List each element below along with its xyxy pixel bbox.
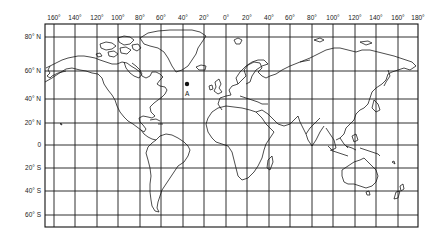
latitude-label: 60° N [25,67,42,74]
marker-label: A [185,90,190,97]
coast-greenland [140,30,206,72]
coast-asia-east [336,70,398,140]
longitude-label: 80° [307,14,317,21]
longitude-label: 180° [411,14,425,21]
latitude-label: 20° N [25,119,42,126]
coast-arctic-islands [96,36,141,57]
marker-dot-icon [185,82,189,86]
coast-hudson-bay [124,62,142,78]
marker-a: A [185,82,190,97]
longitude-label: 120° [348,14,362,21]
longitude-label: 60° [156,14,166,21]
coast-africa [206,106,274,180]
longitude-label: 160° [47,14,61,21]
longitude-label: 80° [135,14,145,21]
coast-british-isles [209,79,222,94]
coast-scandinavia [236,60,268,84]
longitude-label: 40° [264,14,274,21]
coast-alaska [47,66,66,78]
longitude-label: 60° [285,14,295,21]
coast-svalbard [234,38,242,44]
longitude-label: 100° [326,14,340,21]
latitude-label: 0 [37,141,41,148]
latitude-labels: 80° N60° N40° N20° N020° S40° S60° S [25,33,42,218]
latitude-label: 60° S [25,211,42,218]
latitude-label: 40° S [25,187,42,194]
longitude-label: 20° [242,14,252,21]
longitude-label: 120° [90,14,104,21]
longitude-labels: 160°140°120°100°80°60°40°20°0°20°40°60°8… [47,14,425,21]
coast-north-america [45,56,167,132]
world-map: 160°140°120°100°80°60°40°20°0°20°40°60°8… [0,0,439,240]
longitude-label: 100° [111,14,125,21]
latitude-label: 20° S [25,164,42,171]
latitude-label: 40° N [25,95,42,102]
longitude-label: 40° [178,14,188,21]
coast-pacific-islands [60,123,395,164]
coast-new-zealand [394,184,404,199]
longitude-label: 0° [223,14,230,21]
coast-australia [342,158,378,195]
coastlines [45,30,416,212]
latitude-label: 80° N [25,33,42,40]
coast-asia-north [300,38,416,70]
longitude-label: 140° [369,14,383,21]
longitude-label: 160° [391,14,405,21]
coast-europe [218,60,310,110]
coast-central-america [141,119,163,140]
longitude-label: 20° [199,14,209,21]
coast-iceland [196,65,206,70]
coast-middle-east [256,110,320,134]
longitude-label: 140° [68,14,82,21]
